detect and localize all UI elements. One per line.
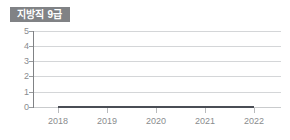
gridline-4 [33,46,281,47]
chart-title-badge: 지방직 9급 [10,7,70,22]
y-label-3: 3 [7,57,29,66]
x-tick-2020 [156,108,157,113]
y-tick-5 [29,31,33,32]
gridline-5 [33,31,281,32]
x-tick-2019 [107,108,108,113]
y-tick-0 [29,107,33,108]
y-label-2: 2 [7,72,29,81]
y-label-0: 0 [7,103,29,112]
x-label-2022: 2022 [234,116,274,126]
x-tick-2018 [58,108,59,113]
x-label-2019: 2019 [87,116,127,126]
y-axis-line [33,31,34,108]
y-axis-labels: 5 4 3 2 1 0 [5,26,29,116]
line-chart: 5 4 3 2 1 0 2018 2019 2020 2021 2022 [0,26,290,140]
x-label-2021: 2021 [185,116,225,126]
y-tick-2 [29,76,33,77]
y-tick-4 [29,46,33,47]
y-tick-1 [29,92,33,93]
gridline-1 [33,92,281,93]
x-label-2018: 2018 [38,116,78,126]
y-label-5: 5 [7,27,29,36]
series-line-jibangjik-9geup [58,106,254,108]
x-label-2020: 2020 [136,116,176,126]
y-label-4: 4 [7,42,29,51]
gridline-2 [33,76,281,77]
x-tick-2022 [254,108,255,113]
y-tick-3 [29,61,33,62]
plot-area [33,31,281,107]
gridline-3 [33,61,281,62]
x-tick-2021 [205,108,206,113]
y-label-1: 1 [7,88,29,97]
